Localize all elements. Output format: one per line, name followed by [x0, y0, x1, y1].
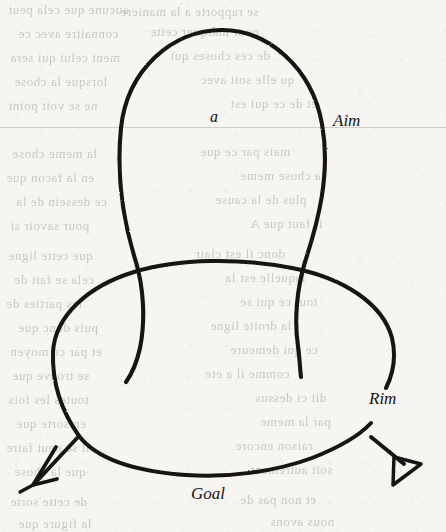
right-goal-arrowhead — [393, 457, 421, 485]
label-a: a — [210, 108, 218, 126]
scanned-page: aucune que cela peutse rapporte a la man… — [0, 0, 446, 532]
rim-oval-lower-right-arc — [186, 423, 371, 476]
figure-ink-layer — [0, 0, 446, 532]
left-goal-arrowhead-tail — [20, 485, 33, 492]
label-aim: Aim — [333, 111, 360, 131]
label-rim: Rim — [369, 389, 396, 409]
rim-oval-lower-left-arc — [53, 352, 186, 475]
rim-oval-upper-arc — [53, 261, 394, 388]
label-goal: Goal — [191, 484, 225, 504]
aim-loop-left-strand — [119, 30, 222, 382]
aim-loop-right-strand — [222, 30, 325, 377]
left-goal-arrow-shaft — [36, 436, 79, 482]
